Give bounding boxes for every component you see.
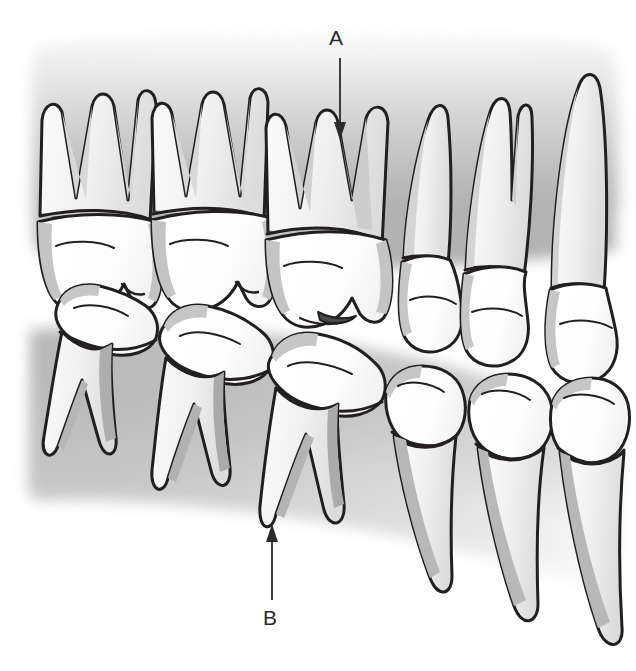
dental-illustration-figure: A B (0, 0, 636, 671)
dentition-illustration-canvas (0, 0, 636, 671)
upper-molar-3 (266, 107, 392, 327)
upper-molar-1 (38, 91, 162, 314)
annotation-arrow-b (266, 524, 278, 600)
upper-molar-2 (152, 89, 276, 312)
annotation-label-b: B (263, 606, 278, 630)
annotation-label-a: A (329, 26, 344, 50)
